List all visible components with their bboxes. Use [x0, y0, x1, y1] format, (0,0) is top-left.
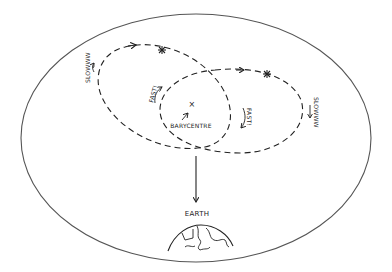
earth-globe-icon	[168, 225, 233, 251]
sky-region-ellipse	[21, 14, 371, 262]
star-orbit-right	[160, 69, 303, 153]
direction-arrow-icon	[128, 45, 136, 46]
barycentre-marker: ×	[189, 100, 196, 109]
barycentre-label: BARYCENTRE	[170, 122, 211, 129]
earth-label: EARTH	[185, 210, 210, 218]
star-icon	[263, 70, 271, 78]
star-icon	[158, 46, 166, 54]
binary-star-diagram: × BARYCENTRE SLOWWW FAST! FAST! SLOWWW E…	[0, 0, 392, 272]
slow-arrow-icon	[93, 63, 95, 72]
fast-label-left: FAST!	[147, 84, 158, 103]
fast-arrow-icon	[241, 108, 245, 128]
slow-label-right: SLOWWW	[313, 97, 320, 128]
fast-label-right: FAST!	[246, 108, 253, 126]
barycentre-pointer-icon	[182, 113, 188, 120]
star-orbit-left	[98, 45, 230, 149]
slow-label-left: SLOWWW	[84, 52, 91, 83]
